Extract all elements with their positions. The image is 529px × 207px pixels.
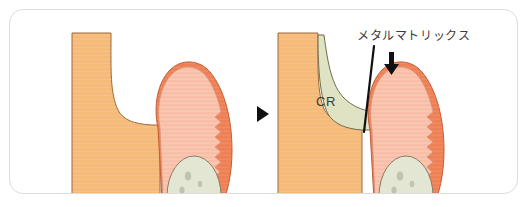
panel-before-restoration: [10, 10, 250, 193]
figure-card-inner: CR メタルマトリックス: [10, 10, 517, 193]
metal-matrix-label: メタルマトリックス: [357, 29, 470, 43]
adjacent-tooth-shape: [72, 33, 160, 193]
before-illustration: [10, 10, 250, 193]
composite-resin-label: CR: [316, 94, 336, 109]
dental-restoration-figure: CR メタルマトリックス: [0, 0, 529, 207]
figure-card: CR メタルマトリックス: [9, 9, 518, 194]
